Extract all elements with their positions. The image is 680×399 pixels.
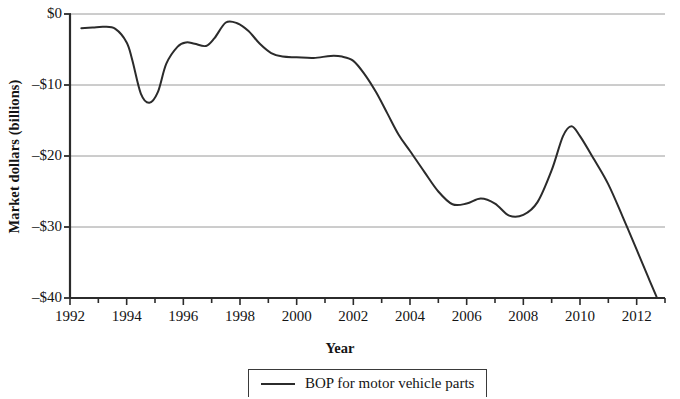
gridlines [70,14,665,298]
series-line-bop [81,21,656,296]
chart-legend: BOP for motor vehicle parts [248,369,487,397]
legend-line-swatch [261,383,295,385]
data-series-group [81,21,656,296]
x-axis-title: Year [0,340,680,357]
chart-figure: Market dollars (billions) $0–$10–$20–$30… [0,0,680,399]
legend-label-bop: BOP for motor vehicle parts [305,375,474,392]
axis-ticks [64,14,665,305]
